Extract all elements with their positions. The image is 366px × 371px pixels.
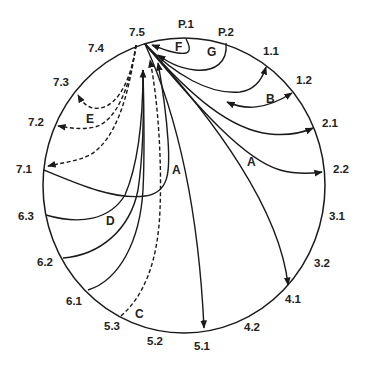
position-label-5.3: 5.3	[104, 320, 120, 332]
arrow-C	[121, 60, 161, 316]
group-label-G: G	[207, 45, 216, 59]
group-label-D: D	[106, 214, 115, 228]
position-label-4.1: 4.1	[285, 293, 302, 305]
position-label-7.4: 7.4	[88, 42, 105, 54]
position-label-3.2: 3.2	[314, 257, 330, 269]
position-label-2.1: 2.1	[322, 117, 339, 129]
position-label-1.1: 1.1	[263, 45, 280, 57]
arrow-E-7-1	[48, 45, 136, 166]
position-label-6.1: 6.1	[66, 295, 83, 307]
position-label-2.2: 2.2	[333, 163, 349, 175]
position-label-6.2: 6.2	[37, 256, 53, 268]
position-label-5.2: 5.2	[147, 335, 163, 347]
outer-circle	[43, 38, 325, 333]
position-label-7.5: 7.5	[129, 26, 146, 38]
arrow-hub-2-1	[145, 44, 313, 135]
position-label-5.1: 5.1	[194, 340, 211, 352]
arrow-B	[227, 93, 292, 107]
arrow-D-6-2	[63, 70, 143, 258]
position-label-7.3: 7.3	[53, 76, 69, 88]
position-label-P.2: P.2	[218, 26, 234, 38]
position-label-7.1: 7.1	[16, 163, 33, 175]
group-label-A-right: A	[247, 155, 256, 169]
group-label-C: C	[135, 307, 144, 321]
group-label-B: B	[266, 92, 275, 106]
arrow-hub-1-1	[145, 44, 266, 92]
position-label-1.2: 1.2	[296, 74, 312, 86]
circular-position-diagram: P.1 P.2 1.1 1.2 2.1 2.2 3.1 3.2 4.1 4.2 …	[0, 0, 366, 371]
position-label-3.1: 3.1	[329, 210, 346, 222]
position-label-7.2: 7.2	[28, 116, 44, 128]
arrow-D-6-1	[88, 70, 144, 290]
group-label-A-left: A	[172, 163, 181, 177]
arrow-E-7-2	[58, 45, 136, 129]
arrow-E-7-3	[78, 45, 136, 108]
position-label-6.3: 6.3	[18, 210, 34, 222]
position-label-4.2: 4.2	[244, 321, 260, 333]
arrow-D-6-3	[46, 70, 143, 220]
position-label-P.1: P.1	[178, 18, 194, 30]
arrow-hub-5-1	[145, 44, 204, 328]
group-label-E: E	[86, 112, 94, 126]
group-label-F: F	[175, 40, 182, 54]
